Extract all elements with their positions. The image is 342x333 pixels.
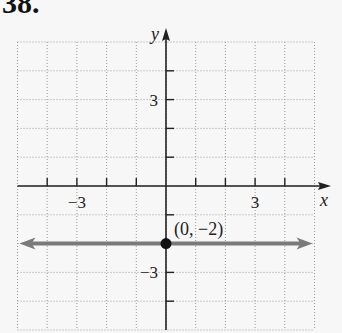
point-marker xyxy=(161,238,172,249)
x-tick-label: 3 xyxy=(251,193,260,212)
y-tick-label: 3 xyxy=(150,91,159,110)
y-tick-label: −3 xyxy=(140,263,158,282)
coordinate-plane: −333−3xy(0, −2) xyxy=(0,0,342,333)
x-tick-label: −3 xyxy=(68,193,86,212)
point-label: (0, −2) xyxy=(174,219,223,240)
plotted-line xyxy=(20,238,313,250)
y-axis-label: y xyxy=(149,24,159,44)
axes xyxy=(18,28,332,330)
x-axis-label: x xyxy=(319,190,328,210)
